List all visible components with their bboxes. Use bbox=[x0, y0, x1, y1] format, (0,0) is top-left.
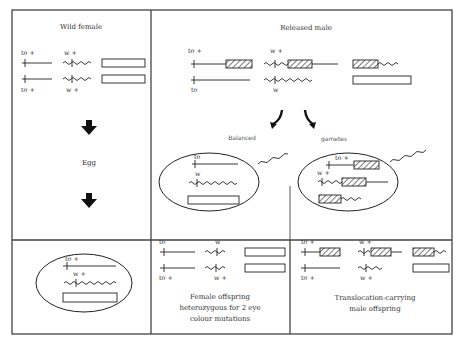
chromosome-w bbox=[264, 76, 312, 84]
chromosome-w bbox=[205, 248, 225, 256]
chromosome-box-bottom bbox=[245, 264, 285, 272]
caption-line: male offspring bbox=[349, 305, 401, 313]
chromosome-to-plus bbox=[63, 262, 116, 270]
chromosome-to-plus bbox=[160, 264, 195, 272]
translocation-chromosome-to bbox=[326, 161, 379, 169]
translocation-chromosome-w bbox=[264, 60, 338, 68]
label-to-plus: to + bbox=[335, 154, 349, 162]
translocation-chromosome-y bbox=[353, 60, 398, 68]
translocation-chromosome-y bbox=[413, 248, 446, 256]
label-to-plus: to + bbox=[65, 255, 79, 263]
label-to: to bbox=[191, 86, 198, 94]
balanced-gamete: Balanced to w bbox=[159, 134, 288, 211]
chromosome-box bbox=[63, 293, 117, 302]
caption-line: Translocation-carrying bbox=[335, 294, 416, 302]
label-to-plus: to + bbox=[301, 274, 315, 282]
translocation-chromosome-w bbox=[358, 248, 402, 256]
label-w: w bbox=[273, 86, 279, 94]
egg-column: Egg bbox=[81, 120, 97, 208]
chromosome-w-plus bbox=[358, 264, 382, 272]
chromosome-box-top bbox=[245, 248, 285, 256]
label-w-plus: w + bbox=[214, 274, 227, 282]
wild-female-panel: Wild female to + w + to + w + bbox=[21, 23, 145, 94]
diagram-frame bbox=[12, 10, 452, 334]
label-w: w bbox=[215, 238, 221, 246]
caption-line: colour mutations bbox=[190, 315, 251, 323]
chromosome-to-plus-bottom bbox=[22, 75, 52, 83]
chromosome-to bbox=[160, 248, 195, 256]
translocation-gamete: gametes to + w + bbox=[298, 135, 426, 211]
wild-female-title: Wild female bbox=[60, 23, 102, 31]
label-w: w bbox=[195, 170, 201, 178]
down-arrow-icon bbox=[81, 193, 97, 208]
label-w-plus: w + bbox=[317, 169, 330, 177]
female-offspring-panel: to w to + w + Female offspring heterozyg… bbox=[159, 238, 285, 323]
label-to-plus: to + bbox=[301, 238, 315, 246]
chromosome-to-plus-top bbox=[22, 59, 52, 67]
chromosome-w-plus bbox=[64, 279, 116, 287]
label-w-plus: w + bbox=[73, 270, 86, 278]
egg-cell-panel: to + w + bbox=[36, 254, 132, 312]
genetics-diagram: Wild female to + w + to + w + Egg bbox=[0, 0, 462, 351]
egg-label: Egg bbox=[82, 159, 97, 167]
label-to-plus: to + bbox=[21, 49, 35, 57]
translocation-chromosome-to bbox=[301, 248, 340, 256]
chromosome-to bbox=[192, 160, 238, 168]
label-to-plus: to + bbox=[159, 274, 173, 282]
translocation-chromosome-w bbox=[318, 178, 388, 186]
label-to-plus: to + bbox=[188, 47, 202, 55]
down-arrow-icon bbox=[81, 120, 97, 135]
chromosome-box-top bbox=[102, 59, 145, 67]
balanced-title: Balanced bbox=[228, 134, 256, 141]
chromosome-box bbox=[353, 76, 411, 84]
label-w-plus: w + bbox=[64, 49, 77, 57]
label-w-plus: w + bbox=[66, 86, 79, 94]
caption-line: heterozygous for 2 eye bbox=[179, 304, 260, 312]
curved-arrow-icon bbox=[305, 110, 313, 124]
curved-arrow-icon bbox=[273, 110, 282, 124]
label-to: to bbox=[159, 238, 166, 246]
chromosome-box-bottom bbox=[102, 75, 145, 83]
sperm-tail-icon bbox=[390, 150, 426, 162]
translocation-chromosome-y bbox=[319, 195, 361, 203]
released-male-title: Released male bbox=[280, 24, 332, 32]
sperm-tail-icon bbox=[258, 153, 288, 164]
label-to-plus: to + bbox=[21, 86, 35, 94]
gametes-title: gametes bbox=[321, 135, 347, 143]
chromosome-w bbox=[189, 179, 237, 187]
label-w-plus: w + bbox=[360, 274, 373, 282]
caption-line: Female offspring bbox=[190, 293, 250, 301]
chromosome-w-plus bbox=[205, 264, 225, 272]
chromosome-w-plus-bottom bbox=[63, 75, 91, 83]
label-w-plus: w + bbox=[359, 238, 372, 246]
chromosome-w-plus-top bbox=[63, 59, 91, 67]
released-male-panel: Released male to + w + to bbox=[188, 24, 411, 129]
chromosome-box bbox=[413, 264, 449, 272]
label-to: to bbox=[194, 153, 201, 161]
chromosome-to-plus bbox=[301, 264, 340, 272]
chromosome-box bbox=[188, 196, 239, 204]
label-w-plus: w + bbox=[270, 47, 283, 55]
male-offspring-panel: to + w + to + w + Translocation-carr bbox=[301, 238, 449, 313]
chromosome-to bbox=[191, 76, 250, 84]
translocation-chromosome-to bbox=[191, 60, 252, 68]
